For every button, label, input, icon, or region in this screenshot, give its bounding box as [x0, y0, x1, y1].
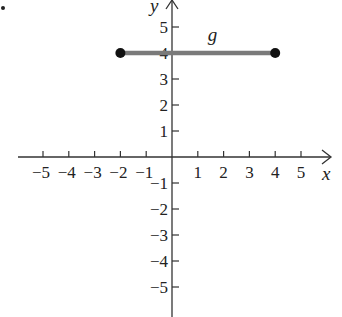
y-tick-label: 5 — [160, 18, 169, 37]
series-label-g: g — [208, 24, 218, 45]
x-tick-label: −4 — [58, 163, 77, 182]
axes — [18, 0, 331, 317]
x-tick-label: −2 — [109, 163, 127, 182]
x-tick-label: −3 — [84, 163, 102, 182]
x-tick-label: 2 — [219, 163, 228, 182]
coordinate-plane: −5−4−3−2−112345−5−4−3−2−112345 x y g — [0, 0, 342, 317]
y-tick-label: −3 — [150, 226, 168, 245]
y-tick-label: 1 — [160, 122, 169, 141]
endpoint-closed-dot — [270, 48, 280, 58]
bullet-dot — [1, 6, 5, 10]
x-tick-label: 4 — [271, 163, 280, 182]
y-tick-label: −2 — [150, 200, 168, 219]
y-tick-label: 3 — [160, 70, 169, 89]
y-axis-label: y — [148, 0, 159, 16]
x-tick-label: 5 — [297, 163, 306, 182]
y-tick-label: 2 — [160, 96, 169, 115]
x-tick-label: −5 — [32, 163, 50, 182]
y-tick-label: −4 — [150, 252, 169, 271]
x-tick-label: 3 — [245, 163, 254, 182]
y-tick-label: −1 — [150, 174, 168, 193]
y-tick-label: −5 — [150, 278, 168, 297]
endpoint-closed-dot — [115, 48, 125, 58]
x-tick-label: 1 — [194, 163, 203, 182]
function-g-segment — [115, 48, 280, 58]
x-axis-label: x — [321, 163, 331, 184]
